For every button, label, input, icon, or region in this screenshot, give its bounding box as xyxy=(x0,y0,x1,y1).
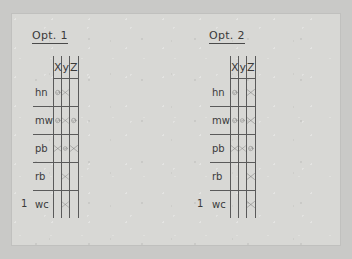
decision-matrix-opt-1: X y Z hn mw xyxy=(33,56,79,218)
column-header-y: y xyxy=(239,56,247,79)
cell-pb-x[interactable] xyxy=(53,135,62,163)
cross-icon xyxy=(70,135,78,162)
cross-icon xyxy=(62,107,69,134)
cell-rb-x[interactable] xyxy=(53,163,62,191)
matrix-header-opt-1: X y Z xyxy=(33,56,78,79)
check-icon xyxy=(54,107,62,134)
header-row: X y Z xyxy=(33,56,78,79)
check-icon xyxy=(239,107,246,134)
cell-pb-z[interactable] xyxy=(246,135,255,163)
row-label-hn: hn xyxy=(210,79,230,107)
matrix-header-opt-2: X y Z xyxy=(210,56,255,79)
matrix-corner xyxy=(210,56,230,79)
cell-mw-x[interactable] xyxy=(53,107,62,135)
cell-mw-x[interactable] xyxy=(230,107,239,135)
table-row: mw xyxy=(210,107,255,135)
matrix-table-opt-2: X y Z hn mw xyxy=(210,56,256,218)
cell-rb-y[interactable] xyxy=(239,163,247,191)
table-row: pb xyxy=(210,135,255,163)
cross-icon xyxy=(62,163,69,190)
row-label-mw: mw xyxy=(210,107,230,135)
table-row: hn xyxy=(210,79,255,107)
cell-wc-z[interactable] xyxy=(69,191,78,219)
cell-wc-y[interactable] xyxy=(239,191,247,219)
cell-pb-y[interactable] xyxy=(62,135,70,163)
header-row: X y Z xyxy=(210,56,255,79)
cell-hn-z[interactable] xyxy=(246,79,255,107)
column-header-x: X xyxy=(230,56,239,79)
matrix-corner xyxy=(33,56,53,79)
cell-pb-y[interactable] xyxy=(239,135,247,163)
cell-hn-x[interactable] xyxy=(230,79,239,107)
cell-rb-x[interactable] xyxy=(230,163,239,191)
cell-hn-y[interactable] xyxy=(239,79,247,107)
cross-icon xyxy=(247,163,255,190)
decision-matrix-opt-2: X y Z hn mw xyxy=(210,56,256,218)
paper-card: Opt. 1 1 X y Z hn xyxy=(11,13,341,246)
cell-wc-y[interactable] xyxy=(62,191,70,219)
row-label-wc: wc xyxy=(210,191,230,219)
check-icon xyxy=(62,135,69,162)
check-icon xyxy=(54,79,62,106)
cross-icon xyxy=(231,135,239,162)
row-label-rb: rb xyxy=(33,163,53,191)
cell-mw-z[interactable] xyxy=(69,107,78,135)
table-row: wc xyxy=(33,191,78,219)
row-label-pb: pb xyxy=(210,135,230,163)
column-header-y: y xyxy=(62,56,70,79)
cell-mw-y[interactable] xyxy=(239,107,247,135)
cross-icon xyxy=(247,191,255,218)
cell-hn-x[interactable] xyxy=(53,79,62,107)
cell-pb-z[interactable] xyxy=(69,135,78,163)
table-row: pb xyxy=(33,135,78,163)
table-row: hn xyxy=(33,79,78,107)
cell-hn-z[interactable] xyxy=(69,79,78,107)
check-icon xyxy=(70,107,78,134)
row-label-pb: pb xyxy=(33,135,53,163)
check-icon xyxy=(231,79,239,106)
row-label-hn: hn xyxy=(33,79,53,107)
cell-rb-y[interactable] xyxy=(62,163,70,191)
column-header-z: Z xyxy=(69,56,78,79)
cell-mw-z[interactable] xyxy=(246,107,255,135)
panel-title-opt-1: Opt. 1 xyxy=(32,29,68,44)
table-row: rb xyxy=(33,163,78,191)
matrix-body-opt-1: hn mw pb xyxy=(33,79,78,219)
cross-icon xyxy=(62,79,69,106)
cross-icon xyxy=(247,79,255,106)
table-row: mw xyxy=(33,107,78,135)
table-row: wc xyxy=(210,191,255,219)
cell-wc-x[interactable] xyxy=(53,191,62,219)
column-header-x: X xyxy=(53,56,62,79)
check-icon xyxy=(231,107,239,134)
matrix-body-opt-2: hn mw pb xyxy=(210,79,255,219)
row-label-wc: wc xyxy=(33,191,53,219)
table-row: rb xyxy=(210,163,255,191)
panel-title-opt-2: Opt. 2 xyxy=(209,29,245,44)
check-icon xyxy=(247,135,255,162)
cell-wc-x[interactable] xyxy=(230,191,239,219)
cross-icon xyxy=(247,107,255,134)
row-label-rb: rb xyxy=(210,163,230,191)
cell-wc-z[interactable] xyxy=(246,191,255,219)
tick-marker-opt-2: 1 xyxy=(197,198,203,209)
cell-rb-z[interactable] xyxy=(69,163,78,191)
cross-icon xyxy=(54,135,62,162)
cross-icon xyxy=(62,191,69,218)
whiteboard-photo: Opt. 1 1 X y Z hn xyxy=(0,0,352,259)
tick-marker-opt-1: 1 xyxy=(21,198,27,209)
column-header-z: Z xyxy=(246,56,255,79)
cell-hn-y[interactable] xyxy=(62,79,70,107)
cross-icon xyxy=(239,135,246,162)
row-label-mw: mw xyxy=(33,107,53,135)
cell-pb-x[interactable] xyxy=(230,135,239,163)
cell-rb-z[interactable] xyxy=(246,163,255,191)
matrix-table-opt-1: X y Z hn mw xyxy=(33,56,79,218)
cell-mw-y[interactable] xyxy=(62,107,70,135)
